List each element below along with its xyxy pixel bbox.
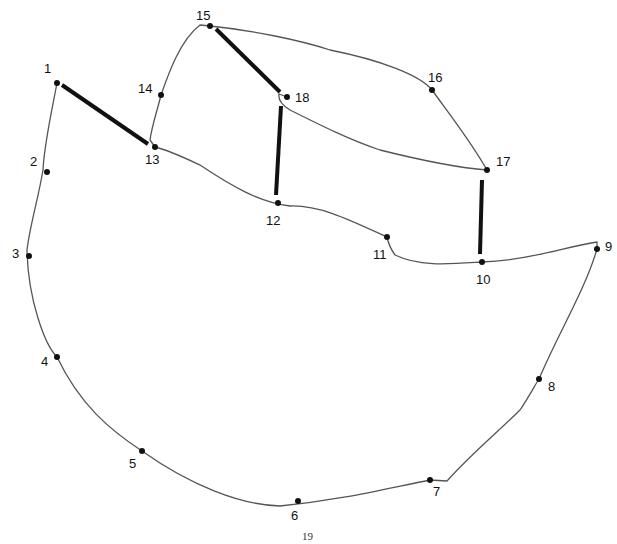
dot-label-16: 16 <box>428 70 442 85</box>
dot-8 <box>536 376 542 382</box>
dot-16 <box>429 87 435 93</box>
dot-label-4: 4 <box>41 354 48 369</box>
dot-label-2: 2 <box>30 154 37 169</box>
dot-2 <box>44 169 50 175</box>
dot-label-13: 13 <box>145 152 159 167</box>
drawing-outline <box>27 25 597 506</box>
dot-18 <box>284 94 290 100</box>
dot-label-5: 5 <box>129 456 136 471</box>
dot-7 <box>427 477 433 483</box>
bold-line-from-15 <box>216 29 280 92</box>
dot-label-3: 3 <box>12 246 19 261</box>
dot-9 <box>594 246 600 252</box>
numbered-dots: 123456789101112131415161718 <box>12 8 612 523</box>
connect-the-dots-drawing: 123456789101112131415161718 19 <box>0 0 617 544</box>
dot-label-9: 9 <box>605 239 612 254</box>
dot-label-7: 7 <box>433 484 440 499</box>
dot-label-8: 8 <box>548 379 555 394</box>
dot-label-14: 14 <box>138 81 152 96</box>
dot-11 <box>384 234 390 240</box>
dot-to-dot-worksheet: 123456789101112131415161718 19 <box>0 0 617 544</box>
dot-label-18: 18 <box>295 90 309 105</box>
dot-label-15: 15 <box>196 8 210 23</box>
dot-17 <box>484 167 490 173</box>
page-number: 19 <box>302 530 314 542</box>
dot-13 <box>152 144 158 150</box>
dot-label-11: 11 <box>373 247 387 262</box>
dot-14 <box>158 92 164 98</box>
dot-label-12: 12 <box>266 213 280 228</box>
dot-label-17: 17 <box>496 154 510 169</box>
dot-label-1: 1 <box>44 61 51 76</box>
dot-12 <box>275 200 281 206</box>
dot-label-6: 6 <box>291 508 298 523</box>
dot-3 <box>26 253 32 259</box>
dot-10 <box>479 259 485 265</box>
dot-5 <box>139 448 145 454</box>
bold-line-from-17 <box>480 180 482 254</box>
dot-label-10: 10 <box>476 272 490 287</box>
bold-line-from-18 <box>276 106 281 195</box>
bold-line-from-1 <box>62 85 148 144</box>
dot-15 <box>207 23 213 29</box>
dot-6 <box>295 498 301 504</box>
dot-4 <box>54 354 60 360</box>
dot-1 <box>54 80 60 86</box>
